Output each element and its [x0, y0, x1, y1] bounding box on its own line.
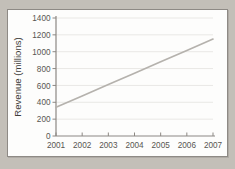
x-tick-label: 2007: [204, 141, 223, 150]
x-tick-label: 2002: [73, 141, 92, 150]
y-tick-label: 0: [46, 132, 51, 141]
y-tick-label: 1400: [32, 14, 51, 23]
figure-background: 0200400600800100012001400200120022003200…: [0, 0, 235, 169]
y-tick-label: 400: [37, 98, 51, 107]
y-axis-title: Revenue (millions): [12, 37, 23, 116]
x-tick-label: 2006: [178, 141, 197, 150]
y-tick-label: 1000: [32, 48, 51, 57]
line-chart: 0200400600800100012001400200120022003200…: [8, 10, 227, 156]
chart-card: 0200400600800100012001400200120022003200…: [7, 9, 228, 157]
x-tick-label: 2004: [125, 141, 144, 150]
x-tick-label: 2003: [99, 141, 118, 150]
y-tick-label: 600: [37, 82, 51, 91]
x-tick-label: 2001: [47, 141, 66, 150]
y-tick-label: 1200: [32, 31, 51, 40]
y-tick-label: 800: [37, 65, 51, 74]
x-tick-label: 2005: [152, 141, 171, 150]
y-tick-label: 200: [37, 115, 51, 124]
data-series-line: [56, 39, 213, 107]
